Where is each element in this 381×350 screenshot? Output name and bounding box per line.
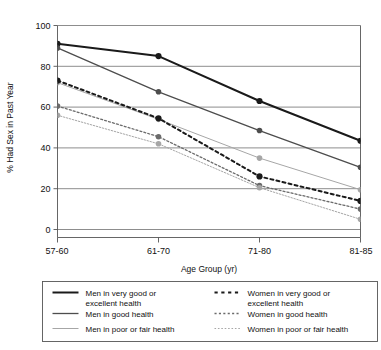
data-point	[256, 173, 262, 179]
legend-label: Men in poor or fair health	[86, 325, 175, 334]
series-0	[54, 41, 363, 144]
data-point	[256, 98, 262, 104]
legend-label-line2: excellent health	[248, 299, 304, 308]
data-series-group	[54, 41, 363, 222]
series-3	[54, 77, 363, 204]
series-line	[58, 106, 361, 209]
legend-item: Men in good health	[53, 310, 154, 319]
data-point	[155, 53, 161, 59]
data-point	[357, 138, 363, 144]
y-tick-label: 40	[40, 143, 50, 153]
legend-item: Men in poor or fair health	[53, 325, 175, 334]
y-tick-label: 0	[45, 225, 50, 235]
series-line	[58, 83, 361, 190]
data-point	[156, 89, 162, 95]
y-tick-label: 20	[40, 184, 50, 194]
data-point	[156, 141, 162, 147]
x-axis: 57-6061-7071-8081-85	[46, 238, 373, 256]
x-tick-label: 71-80	[248, 246, 271, 256]
legend-label-line2: excellent health	[86, 299, 142, 308]
data-point	[358, 217, 364, 223]
series-4	[55, 103, 364, 212]
data-point	[55, 45, 61, 51]
y-axis: 020406080100	[35, 21, 57, 235]
y-tick-label: 60	[40, 102, 50, 112]
x-tick-label: 61-70	[147, 246, 170, 256]
y-tick-label: 100	[35, 21, 50, 31]
y-tick-label: 80	[40, 62, 50, 72]
y-axis-title: % Had Sex in Past Year	[5, 82, 15, 172]
legend-label: Men in very good or	[86, 289, 157, 298]
data-point	[54, 77, 60, 83]
x-tick-label: 57-60	[46, 246, 69, 256]
series-1	[55, 45, 364, 170]
legend-label: Women in good health	[248, 310, 328, 319]
data-point	[55, 112, 61, 118]
legend-label: Men in good health	[86, 310, 154, 319]
data-point	[358, 206, 364, 212]
data-point	[55, 103, 61, 109]
legend-label: Women in very good or	[248, 289, 331, 298]
data-point	[257, 185, 263, 191]
data-point	[155, 115, 161, 121]
data-point	[257, 128, 263, 134]
plot-frame	[58, 26, 361, 238]
data-point	[358, 187, 364, 193]
data-point	[257, 155, 263, 161]
series-line	[58, 115, 361, 219]
series-5	[55, 112, 364, 222]
legend-item: Women in good health	[215, 310, 328, 319]
series-line	[58, 44, 361, 141]
chart-figure: 020406080100% Had Sex in Past Year57-606…	[0, 0, 381, 350]
legend-item: Women in very good orexcellent health	[215, 289, 331, 308]
series-line	[58, 48, 361, 167]
legend: Men in very good orexcellent healthMen i…	[43, 282, 378, 342]
data-point	[358, 164, 364, 170]
sexual-activity-by-age-line-chart: 020406080100% Had Sex in Past Year57-606…	[0, 0, 381, 350]
legend-item: Women in poor or fair health	[215, 325, 349, 334]
legend-label: Women in poor or fair health	[248, 325, 349, 334]
legend-item: Men in very good orexcellent health	[53, 289, 157, 308]
data-point	[156, 134, 162, 140]
x-tick-label: 81-85	[349, 246, 372, 256]
data-point	[357, 198, 363, 204]
x-axis-title: Age Group (yr)	[181, 264, 237, 274]
